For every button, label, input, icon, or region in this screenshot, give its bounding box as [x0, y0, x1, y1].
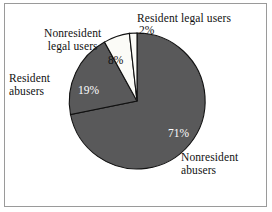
slice-percent-nonresident-legal-users: 8% [108, 54, 123, 67]
slice-label-nonresident-legal-users-line2: legal users [44, 40, 101, 53]
pie-chart-graphic [0, 0, 272, 212]
slice-label-resident-abusers-line1: Resident [9, 72, 50, 85]
slice-label-nonresident-abusers: Nonresident abusers [181, 151, 238, 177]
pie-chart-figure: Resident legal users 2% Nonresident lega… [0, 0, 272, 212]
slice-label-resident-abusers: Resident abusers [9, 72, 50, 98]
slice-label-nonresident-legal-users-line1: Nonresident [44, 27, 101, 40]
slice-percent-nonresident-abusers: 71% [168, 127, 189, 140]
chart-area: Resident legal users 2% Nonresident lega… [0, 0, 272, 212]
slice-label-nonresident-abusers-line2: abusers [181, 164, 238, 177]
slice-percent-resident-abusers: 19% [78, 84, 99, 97]
slice-percent-resident-legal-users: 2% [139, 24, 154, 37]
slice-label-resident-abusers-line2: abusers [9, 85, 50, 98]
slice-label-nonresident-legal-users: Nonresident legal users [44, 27, 101, 53]
slice-label-nonresident-abusers-line1: Nonresident [181, 151, 238, 164]
slice-label-resident-legal-users: Resident legal users [137, 12, 231, 25]
